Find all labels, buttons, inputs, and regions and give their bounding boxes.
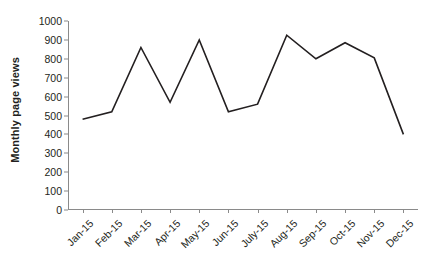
x-tick-label: July-15 [238,217,270,249]
y-axis-title: Monthly page views [0,0,30,220]
series-polyline [83,35,404,134]
x-tick-label: May-15 [178,217,211,250]
x-tick-label: Oct-15 [327,217,358,248]
x-tick-label: Feb-15 [92,217,124,249]
x-tick-label: Sep-15 [296,217,328,249]
series-line-monthly-page-views [68,21,418,210]
x-tick-label: Nov-15 [354,217,386,249]
x-tick-label: Apr-15 [152,217,183,248]
line-chart-figure: Monthly page views 010020030040050060070… [0,0,437,273]
x-tick-label: Dec-15 [383,217,415,249]
plot-area: 01002003004005006007008009001000 Jan-15F… [68,21,418,210]
x-tick-label: Jan-15 [64,217,95,248]
x-tick-label: Jun-15 [210,217,241,248]
x-tick-label: Aug-15 [267,217,299,249]
y-axis-title-label: Monthly page views [9,57,21,163]
x-tick-label: Mar-15 [121,217,153,249]
